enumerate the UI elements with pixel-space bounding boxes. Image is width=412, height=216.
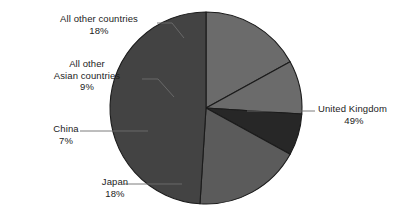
pie-chart: All other countries 18% All other Asian …	[0, 0, 412, 216]
pie-label-all-other-countries-name: All other countries	[40, 13, 158, 25]
pie-label-all-other-asian-countries-name-line2: Asian countries	[28, 70, 146, 82]
pie-label-united-kingdom-name: United Kingdom	[318, 103, 408, 115]
pie-label-all-other-countries: All other countries 18%	[40, 13, 158, 36]
pie-label-china-value: 7%	[30, 135, 102, 147]
pie-label-japan-value: 18%	[84, 188, 146, 200]
pie-label-all-other-asian-countries: All other Asian countries 9%	[28, 58, 146, 93]
pie-label-united-kingdom: United Kingdom 49%	[318, 103, 408, 126]
pie-label-all-other-asian-countries-name-line1: All other	[28, 58, 146, 70]
pie-label-china: China 7%	[30, 123, 102, 146]
pie-label-china-name: China	[30, 123, 102, 135]
pie-label-japan-name: Japan	[84, 176, 146, 188]
pie-label-japan: Japan 18%	[84, 176, 146, 199]
pie-label-all-other-asian-countries-value: 9%	[28, 81, 146, 93]
pie-label-united-kingdom-value: 49%	[318, 115, 408, 127]
pie-label-all-other-countries-value: 18%	[40, 25, 158, 37]
